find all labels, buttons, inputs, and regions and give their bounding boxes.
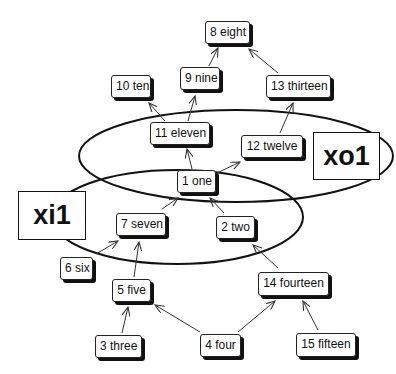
- edge-13-8: [249, 49, 278, 73]
- node-15[interactable]: 15 fifteen: [296, 333, 356, 357]
- edge-15-14: [303, 301, 318, 330]
- edge-11-9: [188, 96, 195, 121]
- edge-11-10: [149, 103, 165, 121]
- edge-9-8: [209, 48, 218, 66]
- node-8[interactable]: 8 eight: [205, 21, 250, 44]
- node-9[interactable]: 9 nine: [180, 67, 220, 90]
- node-7[interactable]: 7 seven: [116, 213, 166, 236]
- edge-4-14: [238, 301, 275, 332]
- edge-5-7: [134, 242, 139, 277]
- edge-3-5: [122, 307, 128, 333]
- edge-7-1: [162, 198, 178, 209]
- node-3[interactable]: 3 three: [95, 335, 142, 358]
- edge-2-1: [210, 198, 224, 213]
- edge-12-13: [280, 103, 293, 133]
- node-11[interactable]: 11 eleven: [150, 122, 210, 145]
- diagram-canvas: xi1 xo1 8 eight 9 nine 10 ten 13 thirtee…: [0, 0, 396, 374]
- edge-1-11: [187, 149, 192, 169]
- node-12[interactable]: 12 twelve: [241, 135, 303, 158]
- edge-1-12: [217, 162, 240, 173]
- node-1[interactable]: 1 one: [177, 170, 216, 193]
- port-xi1[interactable]: xi1: [18, 191, 86, 240]
- node-5[interactable]: 5 five: [112, 279, 151, 302]
- node-4[interactable]: 4 four: [200, 334, 241, 357]
- node-13[interactable]: 13 thirteen: [266, 75, 331, 98]
- edge-4-5: [155, 305, 200, 332]
- node-2[interactable]: 2 two: [216, 216, 255, 239]
- node-6[interactable]: 6 six: [60, 257, 93, 280]
- node-14[interactable]: 14 fourteen: [258, 272, 329, 296]
- edge-6-7: [96, 241, 118, 254]
- edge-14-2: [253, 245, 278, 268]
- port-xo1[interactable]: xo1: [313, 132, 380, 180]
- node-10[interactable]: 10 ten: [111, 75, 151, 98]
